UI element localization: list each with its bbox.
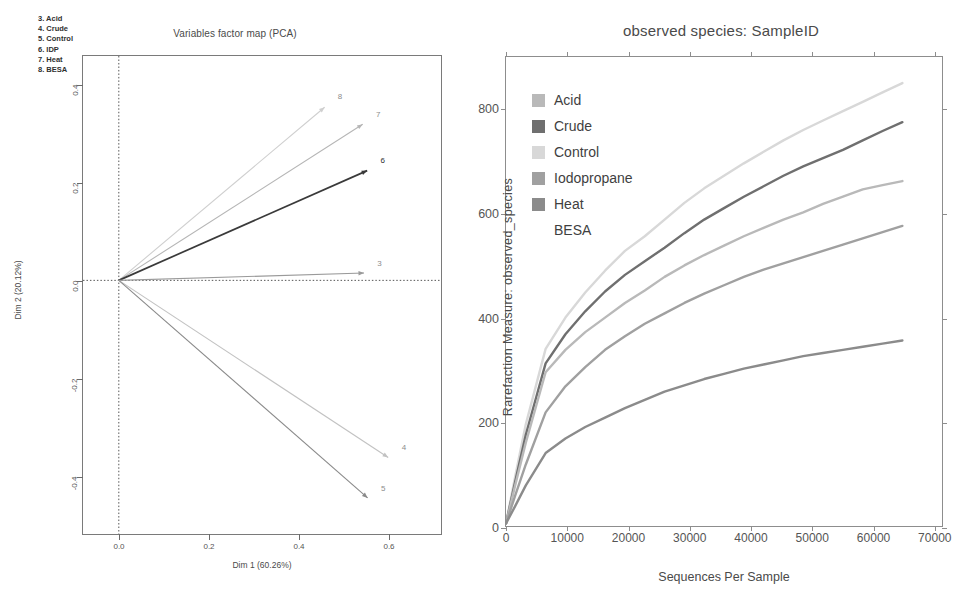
rarefaction-x-tick-mark bbox=[629, 52, 630, 57]
rarefaction-y-axis-label: Rarefaction Measure: observed_species bbox=[501, 107, 515, 487]
legend-color-swatch bbox=[532, 172, 545, 185]
rarefaction-y-tick-label: 600 bbox=[478, 207, 499, 221]
pca-y-tick-mark bbox=[77, 85, 83, 86]
rarefaction-y-tick-mark bbox=[942, 528, 947, 529]
legend-label: BESA bbox=[554, 222, 591, 238]
legend-color-swatch bbox=[532, 198, 545, 211]
pca-y-tick-label: 0.0 bbox=[71, 281, 80, 292]
pca-x-tick-label: 0.4 bbox=[293, 542, 304, 551]
rarefaction-x-tick-mark bbox=[874, 526, 875, 531]
rarefaction-legend-item-crude: Crude bbox=[532, 113, 633, 139]
rarefaction-x-tick-mark bbox=[812, 526, 813, 531]
pca-y-tick-mark bbox=[77, 183, 83, 184]
pca-legend-item-4: 6. IDP bbox=[38, 45, 73, 55]
pca-x-tick-label: 0.0 bbox=[113, 542, 124, 551]
pca-legend: 3. Acid4. Crude5. Control6. IDP7. Heat8.… bbox=[38, 14, 73, 75]
rarefaction-y-tick-mark bbox=[942, 423, 947, 424]
pca-y-tick-mark bbox=[77, 477, 83, 478]
rarefaction-x-tick-mark bbox=[751, 52, 752, 57]
rarefaction-y-tick-mark bbox=[942, 109, 947, 110]
rarefaction-x-tick-label: 40000 bbox=[734, 531, 767, 545]
legend-color-swatch bbox=[532, 224, 545, 237]
pca-vector-control bbox=[119, 280, 368, 498]
pca-vector-besa bbox=[119, 107, 325, 280]
pca-y-tick-label: -0.4 bbox=[71, 477, 80, 491]
pca-y-tick-mark bbox=[77, 281, 83, 282]
rarefaction-plot-area: AcidCrudeControlIodopropaneHeatBESA 0100… bbox=[505, 56, 943, 527]
rarefaction-legend-item-acid: Acid bbox=[532, 87, 633, 113]
rarefaction-x-tick-mark bbox=[629, 526, 630, 531]
pca-x-tick-label: 0.6 bbox=[383, 542, 394, 551]
rarefaction-x-tick-label: 60000 bbox=[857, 531, 890, 545]
pca-legend-item-6: 8. BESA bbox=[38, 65, 73, 75]
rarefaction-x-tick-label: 70000 bbox=[918, 531, 951, 545]
legend-color-swatch bbox=[532, 120, 545, 133]
rarefaction-x-tick-mark bbox=[751, 526, 752, 531]
pca-x-tick-mark bbox=[119, 534, 120, 540]
rarefaction-legend-item-control: Control bbox=[532, 139, 633, 165]
legend-label: Acid bbox=[554, 92, 581, 108]
pca-x-tick-mark bbox=[209, 534, 210, 540]
rarefaction-x-axis-label: Sequences Per Sample bbox=[505, 570, 943, 584]
rarefaction-y-tick-label: 200 bbox=[478, 416, 499, 430]
pca-x-axis-label: Dim 1 (60.26%) bbox=[82, 560, 442, 570]
legend-label: Control bbox=[554, 144, 599, 160]
pca-legend-item-2: 4. Crude bbox=[38, 24, 73, 34]
rarefaction-x-tick-mark bbox=[935, 52, 936, 57]
rarefaction-x-tick-mark bbox=[567, 526, 568, 531]
rarefaction-curve-iodopropane bbox=[506, 226, 902, 524]
rarefaction-y-tick-label: 800 bbox=[478, 102, 499, 116]
rarefaction-x-tick-mark bbox=[874, 52, 875, 57]
pca-vectors-svg bbox=[83, 56, 441, 534]
pca-x-tick-label: 0.2 bbox=[203, 542, 214, 551]
rarefaction-x-tick-mark bbox=[935, 526, 936, 531]
pca-y-tick-mark bbox=[77, 379, 83, 380]
rarefaction-legend: AcidCrudeControlIodopropaneHeatBESA bbox=[532, 87, 633, 243]
rarefaction-legend-item-besa: BESA bbox=[532, 217, 633, 243]
pca-plot-area: 0.00.20.40.60.40.20.0-0.2-0.4876345 bbox=[82, 55, 442, 535]
pca-legend-item-5: 7. Heat bbox=[38, 55, 73, 65]
pca-y-axis-label: Dim 2 (20.12%) bbox=[13, 220, 23, 360]
pca-y-tick-label: 0.4 bbox=[71, 85, 80, 96]
rarefaction-legend-item-iodopropane: Iodopropane bbox=[532, 165, 633, 191]
pca-y-tick-label: 0.2 bbox=[71, 183, 80, 194]
rarefaction-legend-item-heat: Heat bbox=[532, 191, 633, 217]
legend-color-swatch bbox=[532, 94, 545, 107]
legend-color-swatch bbox=[532, 146, 545, 159]
rarefaction-x-tick-label: 0 bbox=[503, 531, 510, 545]
pca-x-tick-mark bbox=[299, 534, 300, 540]
legend-label: Crude bbox=[554, 118, 592, 134]
pca-vector-idp bbox=[119, 171, 367, 281]
rarefaction-x-tick-mark bbox=[506, 52, 507, 57]
rarefaction-x-tick-label: 20000 bbox=[612, 531, 645, 545]
rarefaction-x-tick-mark bbox=[690, 52, 691, 57]
rarefaction-x-tick-label: 50000 bbox=[796, 531, 829, 545]
rarefaction-y-tick-mark bbox=[942, 319, 947, 320]
rarefaction-x-tick-mark bbox=[812, 52, 813, 57]
rarefaction-x-tick-label: 10000 bbox=[551, 531, 584, 545]
pca-x-tick-mark bbox=[389, 534, 390, 540]
pca-y-tick-label: -0.2 bbox=[71, 379, 80, 393]
rarefaction-x-tick-mark bbox=[506, 526, 507, 531]
rarefaction-x-tick-label: 30000 bbox=[673, 531, 706, 545]
rarefaction-x-tick-mark bbox=[690, 526, 691, 531]
pca-vector-crude bbox=[119, 280, 388, 457]
rarefaction-y-tick-mark bbox=[501, 528, 506, 529]
pca-legend-item-1: 3. Acid bbox=[38, 14, 73, 24]
rarefaction-curve-heat bbox=[506, 340, 902, 523]
rarefaction-title: observed species: SampleID bbox=[470, 22, 972, 39]
rarefaction-y-tick-label: 0 bbox=[492, 521, 499, 535]
legend-label: Heat bbox=[554, 196, 584, 212]
legend-label: Iodopropane bbox=[554, 170, 633, 186]
rarefaction-y-tick-label: 400 bbox=[478, 312, 499, 326]
pca-vector-acid bbox=[119, 271, 364, 280]
pca-figure: Variables factor map (PCA) 0.00.20.40.60… bbox=[0, 0, 470, 599]
rarefaction-y-tick-mark bbox=[942, 214, 947, 215]
rarefaction-x-tick-mark bbox=[567, 52, 568, 57]
pca-vector-heat bbox=[119, 124, 363, 280]
rarefaction-figure: observed species: SampleID AcidCrudeCont… bbox=[470, 0, 972, 599]
pca-legend-item-3: 5. Control bbox=[38, 34, 73, 44]
